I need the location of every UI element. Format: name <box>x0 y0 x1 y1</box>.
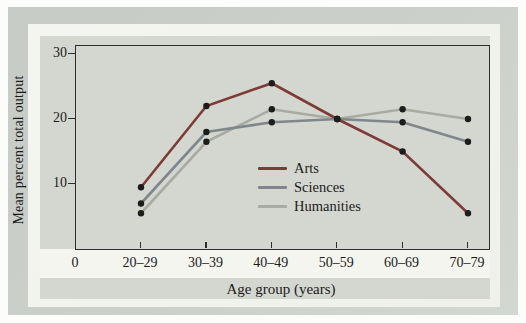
y-tick-mark <box>68 118 75 119</box>
sciences-data-point <box>269 119 275 125</box>
sciences-data-point <box>465 139 471 145</box>
plot-area <box>75 45 490 250</box>
sciences-data-point <box>399 119 405 125</box>
x-tick-mark <box>271 242 272 248</box>
sciences-data-point <box>203 129 209 135</box>
legend: Arts Sciences Humanities <box>258 159 361 216</box>
figure: Mean percent total output Age group (yea… <box>0 0 526 323</box>
x-tick-mark <box>467 242 468 248</box>
humanities-data-point <box>465 116 471 122</box>
x-tick-mark <box>336 242 337 248</box>
legend-item-arts: Arts <box>258 159 361 178</box>
x-tick-label: 20–29 <box>108 254 172 272</box>
y-tick-label: 20 <box>40 109 67 127</box>
arts-data-point <box>203 103 209 109</box>
legend-label-arts: Arts <box>294 159 319 178</box>
sciences-data-point <box>138 200 144 206</box>
x-axis-title: Age group (years) <box>226 281 335 298</box>
x-tick-label: 40–49 <box>239 254 303 272</box>
arts-data-point <box>138 184 144 190</box>
y-tick-mark <box>68 183 75 184</box>
x-tick-label: 70–79 <box>435 254 499 272</box>
arts-data-point <box>465 210 471 216</box>
humanities-data-point <box>138 210 144 216</box>
x-tick-mark <box>402 242 403 248</box>
x-tick-label: 60–69 <box>370 254 434 272</box>
sciences-line-swatch <box>258 186 287 189</box>
legend-label-humanities: Humanities <box>294 197 361 216</box>
y-tick-label: 10 <box>40 174 67 192</box>
humanities-data-point <box>399 106 405 112</box>
legend-item-humanities: Humanities <box>258 197 361 216</box>
humanities-data-point <box>269 106 275 112</box>
arts-data-point <box>269 80 275 86</box>
x-tick-label: 30–39 <box>173 254 237 272</box>
x-tick-mark <box>140 242 141 248</box>
x-axis-origin-label: 0 <box>65 254 85 272</box>
x-tick-mark <box>205 242 206 248</box>
line-chart <box>76 46 489 249</box>
legend-item-sciences: Sciences <box>258 178 361 197</box>
humanities-line-swatch <box>258 205 287 208</box>
x-tick-label: 50–59 <box>304 254 368 272</box>
y-axis-title: Mean percent total output <box>11 75 27 224</box>
arts-line-swatch <box>258 167 287 170</box>
humanities-data-point <box>203 139 209 145</box>
humanities-data-point <box>334 116 340 122</box>
arts-data-point <box>399 148 405 154</box>
legend-label-sciences: Sciences <box>294 178 345 197</box>
y-tick-label: 30 <box>40 44 67 62</box>
y-tick-mark <box>68 53 75 54</box>
